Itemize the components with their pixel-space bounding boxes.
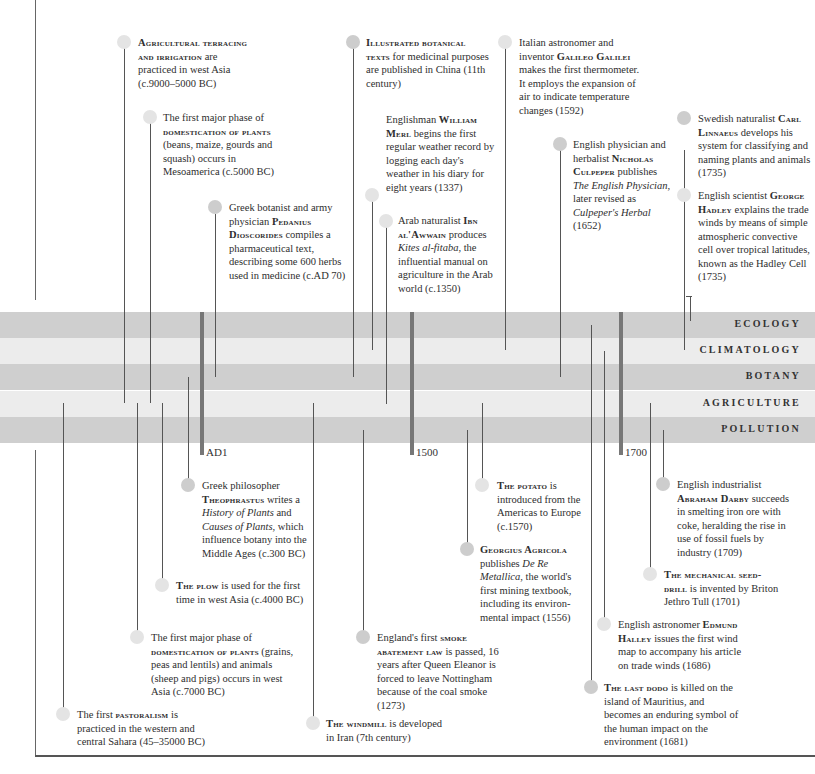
event-dot: [181, 478, 195, 492]
event-title: Kites al-fitaba: [398, 242, 458, 253]
event-dot: [346, 35, 360, 49]
connector-line: [386, 227, 387, 404]
event-dot: [677, 111, 691, 125]
connector-line: [124, 47, 125, 403]
event-nicholas-culpeper: English physician and herbalist Nicholas…: [573, 138, 673, 233]
event-dot: [460, 542, 474, 556]
connector-line: [650, 403, 651, 571]
century-marker-1700: [619, 312, 623, 455]
event-title: Culpeper's Herbal: [573, 207, 651, 218]
event-title: History of Plants: [202, 507, 274, 518]
event-the-windmill: The windmill is developed in Iran (7th c…: [326, 717, 451, 744]
event-domestication-west-asia: The first major phase of domestication o…: [151, 631, 301, 699]
event-highlight: The potato: [497, 480, 547, 491]
event-text: publishes: [615, 166, 657, 177]
frame-bottom-border: [35, 755, 815, 757]
event-highlight: The last dodo: [604, 682, 668, 693]
event-smoke-abatement-law: England's first smoke abatement law is p…: [377, 631, 502, 712]
event-george-hadley: English scientist George Hadley explains…: [698, 189, 815, 284]
event-text: The first: [77, 709, 116, 720]
event-text: English industrialist: [677, 479, 761, 490]
connector-line: [215, 214, 216, 377]
event-dot: [117, 35, 131, 49]
event-dot: [677, 188, 691, 202]
event-galileo-galilei: Italian astronomer and inventor Galileo …: [519, 36, 645, 117]
event-dot: [553, 137, 567, 151]
event-text: Swedish naturalist: [698, 113, 778, 124]
event-highlight: Agricultural terracing and irrigation: [138, 37, 247, 62]
event-highlight: Abraham Darby: [677, 493, 749, 504]
connector-line: [467, 430, 468, 547]
event-pastoralism: The first pastoralism is practiced in th…: [77, 708, 217, 749]
event-highlight: domestication of plants: [163, 126, 271, 137]
event-dot: [56, 707, 70, 721]
event-title: The English Physician: [573, 180, 668, 191]
century-label-1500: 1500: [416, 446, 438, 458]
event-theophrastus: Greek philosopher Theophrastus writes a …: [202, 479, 310, 560]
event-text: Englishman: [386, 114, 439, 125]
event-text: explains the trade winds by means of sim…: [698, 204, 810, 283]
band-label-climatology: CLIMATOLOGY: [699, 344, 801, 355]
connector-line: [162, 403, 163, 583]
event-dot: [643, 567, 657, 581]
event-agricultural-terracing: Agricultural terracing and irrigation ar…: [138, 36, 248, 90]
band-label-agriculture: AGRICULTURE: [703, 397, 801, 408]
connector-line: [150, 122, 151, 403]
event-text: English scientist: [698, 190, 770, 201]
event-highlight: The plow: [176, 580, 219, 591]
century-label-ad1: AD1: [206, 446, 227, 458]
event-highlight: Georgius Agricola: [480, 544, 567, 555]
event-abraham-darby: English industrialist Abraham Darby succ…: [677, 478, 795, 559]
event-text: publishes: [480, 558, 522, 569]
event-dot: [379, 214, 393, 228]
century-marker-1500: [410, 312, 414, 455]
event-text: produces: [446, 229, 487, 240]
connector-line: [684, 150, 685, 350]
event-text: England's first: [377, 632, 440, 643]
event-text: and: [274, 507, 292, 518]
event-text: makes the first thermometer. It employs …: [519, 64, 639, 116]
event-georgius-agricola: Georgius Agricola publishes De Re Metall…: [480, 543, 580, 624]
connector-line: [663, 430, 664, 482]
event-dot: [498, 35, 512, 49]
event-text: (1652): [573, 220, 601, 231]
connector-line: [690, 296, 691, 321]
event-dot: [475, 478, 489, 492]
connector-line: [560, 150, 561, 377]
event-dot: [597, 617, 611, 631]
event-mechanical-seed-drill: The mechanical seed-drill is invented by…: [664, 568, 784, 609]
event-text: The first major phase of: [163, 112, 264, 123]
connector-line: [604, 351, 605, 621]
event-highlight: pastoralism: [116, 709, 169, 720]
event-william-merl: Englishman William Merl begins the first…: [386, 113, 498, 194]
connector-line: [686, 296, 692, 297]
event-text: Arab naturalist: [398, 215, 463, 226]
event-title: Causes of Plants: [202, 521, 273, 532]
event-dot: [155, 578, 169, 592]
event-dot: [584, 680, 598, 694]
event-domestication-mesoamerica: The first major phase of domestication o…: [163, 111, 275, 179]
event-text: (beans, maize, gourds and squash) occurs…: [163, 139, 274, 177]
event-dot: [306, 716, 320, 730]
event-highlight: The windmill: [326, 718, 387, 729]
connector-line: [482, 403, 483, 483]
frame-left-border: [35, 0, 36, 300]
event-dot: [656, 477, 670, 491]
connector-line: [363, 430, 364, 633]
connector-line: [63, 403, 64, 713]
connector-line: [188, 377, 189, 482]
connector-line: [505, 48, 506, 350]
event-pedanius-dioscorides: Greek botanist and army physician Pedani…: [229, 201, 347, 282]
event-the-last-dodo: The last dodo is killed on the island of…: [604, 681, 739, 749]
event-dot: [365, 188, 379, 202]
century-marker-ad1: [200, 312, 204, 455]
event-edmund-halley: English astronomer Edmund Halley issues …: [618, 618, 753, 672]
event-highlight: domestication of plants: [151, 646, 259, 657]
band-label-pollution: POLLUTION: [721, 423, 801, 434]
event-highlight: Theophrastus: [202, 494, 264, 505]
band-label-botany: BOTANY: [746, 370, 801, 381]
band-climatology: CLIMATOLOGY: [0, 338, 815, 364]
event-the-plow: The plow is used for the first time in w…: [176, 579, 311, 606]
band-agriculture: AGRICULTURE: [0, 391, 815, 417]
event-dot: [208, 200, 222, 214]
